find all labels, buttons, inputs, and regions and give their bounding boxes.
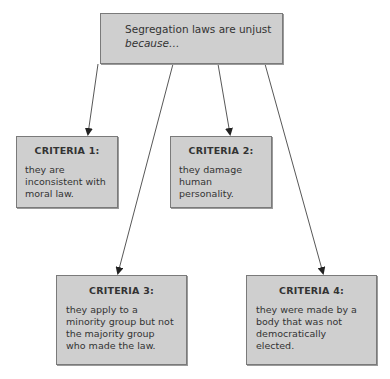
root-statement-line2: because… bbox=[125, 36, 272, 50]
criteria-4-title: CRITERIA 4: bbox=[256, 285, 367, 297]
arrow-to-criteria-3 bbox=[118, 64, 173, 273]
arrow-to-criteria-2 bbox=[218, 64, 230, 134]
criteria-1-box: CRITERIA 1: they are inconsistent with m… bbox=[16, 136, 118, 208]
criteria-2-title: CRITERIA 2: bbox=[179, 145, 263, 157]
arrow-to-criteria-1 bbox=[88, 64, 98, 134]
root-statement-line1: Segregation laws are unjust bbox=[125, 22, 272, 36]
criteria-3-title: CRITERIA 3: bbox=[66, 285, 177, 297]
root-statement-box: Segregation laws are unjust because… bbox=[100, 13, 283, 64]
criteria-3-text: they apply to a minority group but not t… bbox=[66, 304, 177, 352]
criteria-2-text: they damage human personality. bbox=[179, 164, 263, 200]
arrow-to-criteria-4 bbox=[265, 64, 323, 273]
criteria-3-box: CRITERIA 3: they apply to a minority gro… bbox=[56, 275, 187, 365]
criteria-2-box: CRITERIA 2: they damage human personalit… bbox=[170, 136, 272, 208]
criteria-1-text: they are inconsistent with moral law. bbox=[25, 164, 109, 200]
criteria-4-box: CRITERIA 4: they were made by a body tha… bbox=[246, 275, 377, 365]
criteria-1-title: CRITERIA 1: bbox=[25, 145, 109, 157]
criteria-4-text: they were made by a body that was not de… bbox=[256, 304, 367, 352]
